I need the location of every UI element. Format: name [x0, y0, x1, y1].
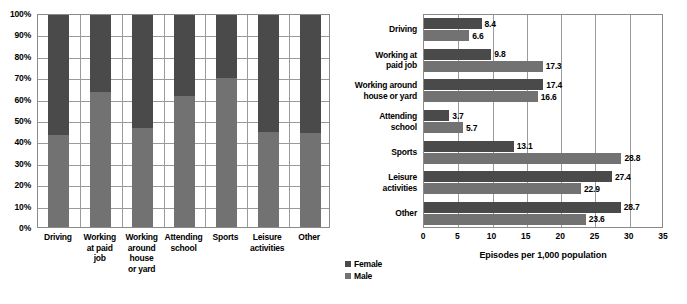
- left-chart-segment-female: [174, 15, 195, 98]
- left-chart-x-tick-label: Sports: [201, 232, 249, 243]
- left-chart-y-tick-label: 50%: [15, 116, 31, 126]
- right-chart-x-tick-label: 20: [555, 231, 564, 241]
- right-chart-category-label: Working aroundhouse or yard: [345, 80, 417, 101]
- left-chart-segment-female: [132, 15, 153, 129]
- right-chart-bar-female: [424, 141, 514, 152]
- right-chart-value-label: 17.4: [546, 80, 562, 90]
- right-chart-x-tick-label: 35: [658, 231, 667, 241]
- legend-item: Female: [345, 258, 382, 269]
- left-chart-x-tick-label: Workingaroundhouseor yard: [118, 232, 166, 274]
- right-chart-gridline: [561, 15, 562, 227]
- left-chart-category-divider: [205, 15, 206, 227]
- right-chart-value-label: 28.7: [624, 202, 640, 212]
- right-chart-category-label: Attendingschool: [345, 111, 417, 132]
- left-chart-category-divider: [80, 15, 81, 227]
- right-chart-bar-male: [424, 30, 469, 41]
- right-chart-value-label: 27.4: [615, 172, 631, 182]
- left-chart-segment-male: [174, 96, 195, 227]
- left-chart-segment-male: [132, 128, 153, 228]
- right-chart-value-label: 9.8: [494, 49, 505, 59]
- right-chart-value-label: 16.6: [541, 92, 557, 102]
- left-chart-x-axis-labels: DrivingWorkingat paidjobWorkingaroundhou…: [37, 232, 330, 300]
- right-chart-bar-female: [424, 171, 612, 182]
- right-chart-bar-male: [424, 183, 581, 194]
- left-chart-stacked-bar: [258, 15, 279, 227]
- left-chart-segment-female: [300, 15, 321, 135]
- right-chart-bar-female: [424, 202, 621, 213]
- left-chart-category-divider: [122, 15, 123, 227]
- right-chart-value-label: 22.9: [584, 184, 600, 194]
- right-chart-value-label: 3.7: [452, 111, 463, 121]
- right-chart-x-axis-title: Episodes per 1,000 population: [423, 250, 663, 260]
- left-chart-segment-female: [48, 15, 69, 137]
- left-chart-x-tick-label: Leisureactivities: [243, 232, 291, 253]
- right-chart-bar-male: [424, 214, 586, 225]
- right-chart-category-label: Other: [345, 207, 417, 218]
- left-chart-stacked-bar: [300, 15, 321, 227]
- right-chart-bar-female: [424, 18, 482, 29]
- right-chart-x-tick-label: 10: [487, 231, 496, 241]
- left-chart-category-divider: [247, 15, 248, 227]
- right-chart-bar-female: [424, 49, 491, 60]
- left-chart-y-tick-label: 90%: [15, 30, 31, 40]
- left-chart-y-tick-label: 80%: [15, 52, 31, 62]
- left-chart-segment-female: [216, 15, 237, 80]
- right-chart-gridline: [630, 15, 631, 227]
- left-chart-segment-male: [300, 133, 321, 227]
- right-chart-bar-male: [424, 91, 538, 102]
- left-chart-stacked-bar: [48, 15, 69, 227]
- right-chart-bar-male: [424, 153, 621, 164]
- left-chart-y-tick-label: 0%: [19, 223, 31, 233]
- left-chart-x-tick-label: Attendingschool: [160, 232, 208, 253]
- left-chart-category-divider: [164, 15, 165, 227]
- left-chart-x-tick-label: Other: [285, 232, 333, 243]
- left-chart-stacked-bar: [132, 15, 153, 227]
- left-chart-category-divider: [289, 15, 290, 227]
- right-chart-category-label: Leisureactivities: [345, 172, 417, 193]
- right-chart-value-label: 17.3: [546, 61, 562, 71]
- right-chart-category-label: Working atpaid job: [345, 49, 417, 70]
- figure-root: 0%10%20%30%40%50%60%70%80%90%100% Drivin…: [0, 0, 687, 304]
- left-chart-stacked-bar: [90, 15, 111, 227]
- right-chart-x-tick-label: 15: [521, 231, 530, 241]
- left-chart-stacked-bar: [174, 15, 195, 227]
- left-chart-y-tick-label: 60%: [15, 95, 31, 105]
- legend-label: Female: [354, 259, 382, 269]
- left-chart-segment-male: [90, 92, 111, 227]
- left-chart-y-axis: 0%10%20%30%40%50%60%70%80%90%100%: [0, 14, 34, 228]
- right-chart-category-labels: DrivingWorking atpaid jobWorking aroundh…: [345, 14, 417, 228]
- right-chart-plot-area: 8.46.69.817.317.416.63.75.713.128.827.42…: [423, 14, 663, 228]
- right-chart-category-label: Sports: [345, 146, 417, 157]
- left-chart-plot-area: [37, 14, 330, 228]
- stacked-percent-chart: 0%10%20%30%40%50%60%70%80%90%100% Drivin…: [0, 0, 343, 304]
- left-chart-y-tick-label: 10%: [15, 202, 31, 212]
- left-chart-x-tick-label: Workingat paidjob: [76, 232, 124, 264]
- right-chart-x-tick-label: 5: [455, 231, 460, 241]
- episodes-bar-chart: DrivingWorking atpaid jobWorking aroundh…: [343, 0, 687, 304]
- right-chart-value-label: 5.7: [466, 123, 477, 133]
- right-chart-bar-male: [424, 122, 463, 133]
- left-chart-y-tick-label: 40%: [15, 137, 31, 147]
- right-chart-value-label: 13.1: [517, 141, 533, 151]
- left-chart-y-tick-label: 100%: [10, 9, 31, 19]
- right-chart-category-label: Driving: [345, 24, 417, 35]
- right-chart-x-tick-label: 25: [590, 231, 599, 241]
- right-chart-gridline: [458, 15, 459, 227]
- left-chart-x-tick-label: Driving: [34, 232, 82, 243]
- left-chart-y-tick-label: 70%: [15, 73, 31, 83]
- left-chart-y-tick-label: 30%: [15, 159, 31, 169]
- legend-label: Male: [354, 271, 372, 281]
- right-chart-value-label: 23.6: [589, 214, 605, 224]
- left-chart-segment-male: [48, 135, 69, 227]
- legend-item: Male: [345, 270, 382, 281]
- legend-swatch-icon: [345, 261, 351, 267]
- legend-swatch-icon: [345, 273, 351, 279]
- right-chart-bar-male: [424, 61, 543, 72]
- left-chart-y-tick-label: 20%: [15, 180, 31, 190]
- right-chart-x-tick-label: 30: [624, 231, 633, 241]
- left-chart-stacked-bar: [216, 15, 237, 227]
- right-chart-gridline: [595, 15, 596, 227]
- left-chart-segment-female: [90, 15, 111, 94]
- chart-legend: FemaleMale: [345, 258, 382, 282]
- right-chart-gridline: [493, 15, 494, 227]
